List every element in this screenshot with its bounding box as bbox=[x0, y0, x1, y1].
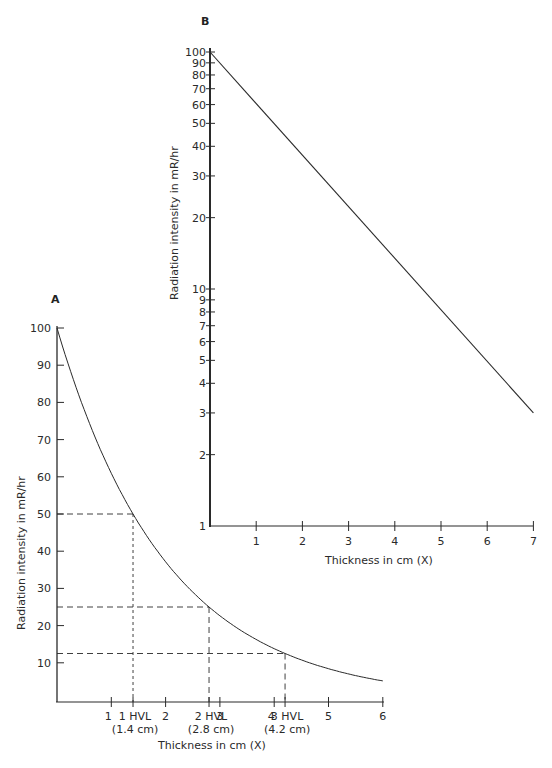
y-tick-label: 2 bbox=[199, 449, 206, 462]
y-tick-label: 100 bbox=[185, 46, 206, 59]
hvl-label: 3 HVL bbox=[271, 710, 304, 723]
y-tick-label: 4 bbox=[199, 377, 206, 390]
x-tick-label: 3 bbox=[345, 535, 352, 548]
y-tick-label: 40 bbox=[192, 140, 206, 153]
y-tick-label: 60 bbox=[37, 471, 51, 484]
panel-b-data-line bbox=[210, 52, 533, 413]
panel-b-label: B bbox=[201, 15, 209, 28]
y-tick-label: 10 bbox=[37, 657, 51, 670]
y-tick-label: 50 bbox=[37, 508, 51, 521]
x-tick-label: 2 bbox=[162, 710, 169, 723]
hvl-sublabel: (1.4 cm) bbox=[112, 723, 158, 736]
y-tick-label: 30 bbox=[37, 582, 51, 595]
y-tick-label: 20 bbox=[192, 212, 206, 225]
hvl-label: 2 HVL bbox=[195, 710, 228, 723]
hvl-sublabel: (4.2 cm) bbox=[264, 723, 310, 736]
y-tick-label: 10 bbox=[192, 283, 206, 296]
y-tick-label: 70 bbox=[192, 83, 206, 96]
hvl-sublabel: (2.8 cm) bbox=[188, 723, 234, 736]
x-tick-label: 6 bbox=[379, 710, 386, 723]
y-tick-label: 30 bbox=[192, 170, 206, 183]
x-tick-label: 5 bbox=[325, 710, 332, 723]
x-tick-label: 7 bbox=[530, 535, 537, 548]
y-tick-label: 50 bbox=[192, 117, 206, 130]
panel-a-y-axis-ticks: 102030405060708090100 bbox=[30, 322, 64, 670]
y-tick-label: 1 bbox=[199, 520, 206, 533]
y-tick-label: 90 bbox=[37, 359, 51, 372]
chart-canvas: B 123456789102030405060708090100 1234567… bbox=[0, 0, 552, 768]
x-tick-label: 2 bbox=[299, 535, 306, 548]
y-tick-label: 3 bbox=[199, 407, 206, 420]
panel-a-x-axis-title: Thickness in cm (X) bbox=[157, 739, 266, 752]
y-tick-label: 100 bbox=[30, 322, 51, 335]
y-tick-label: 8 bbox=[199, 306, 206, 319]
panel-a-x-axis-ticks: 1234561 HVL(1.4 cm)2 HVL(2.8 cm)3 HVL(4.… bbox=[105, 697, 387, 736]
panel-a-label: A bbox=[51, 293, 60, 306]
y-tick-label: 40 bbox=[37, 545, 51, 558]
panel-a-y-axis-title: Radiation intensity in mR/hr bbox=[15, 476, 28, 630]
hvl-label: 1 HVL bbox=[119, 710, 152, 723]
y-tick-label: 80 bbox=[192, 69, 206, 82]
y-tick-label: 6 bbox=[199, 336, 206, 349]
panel-b-x-axis-ticks: 1234567 bbox=[253, 521, 537, 548]
y-tick-label: 20 bbox=[37, 620, 51, 633]
x-tick-label: 1 bbox=[105, 710, 112, 723]
panel-a-data-curve bbox=[57, 328, 383, 681]
y-tick-label: 60 bbox=[192, 99, 206, 112]
x-tick-label: 6 bbox=[484, 535, 491, 548]
y-tick-label: 5 bbox=[199, 354, 206, 367]
y-tick-label: 70 bbox=[37, 434, 51, 447]
panel-a-hvl-guide-lines bbox=[57, 514, 285, 702]
panel-b: B 123456789102030405060708090100 1234567… bbox=[168, 15, 537, 567]
panel-b-y-axis-title: Radiation intensity in mR/hr bbox=[168, 146, 181, 300]
y-tick-label: 7 bbox=[199, 320, 206, 333]
y-tick-label: 80 bbox=[37, 396, 51, 409]
x-tick-label: 1 bbox=[253, 535, 260, 548]
x-tick-label: 4 bbox=[391, 535, 398, 548]
panel-b-x-axis-title: Thickness in cm (X) bbox=[324, 554, 433, 567]
x-tick-label: 5 bbox=[438, 535, 445, 548]
